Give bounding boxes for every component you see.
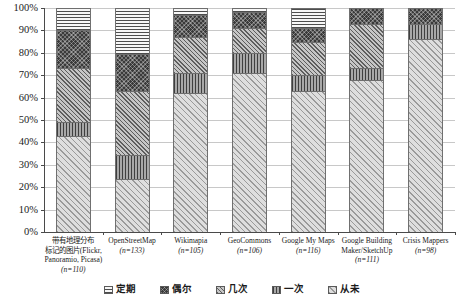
x-axis-category-label: Crisis Mappers(n=98) [391,236,461,255]
x-tick-mark [103,232,104,235]
y-tick-mark [41,187,44,188]
y-tick-mark [41,30,44,31]
y-tick-mark [41,232,44,233]
y-tick-mark [41,98,44,99]
legend-item[interactable]: 定期 [104,285,136,294]
legend-item-label: 几次 [228,285,248,294]
light-diagonal-swatch [328,286,337,294]
category-label-line: Panoramio, Picasa) [38,255,108,265]
x-tick-mark [161,232,162,235]
y-tick-label: 10% [0,205,38,215]
legend-item-label: 定期 [116,285,136,294]
y-tick-label: 90% [0,25,38,35]
y-tick-mark [41,8,44,9]
y-tick-mark [41,210,44,211]
x-tick-mark [220,232,221,235]
category-label-line: Crisis Mappers [391,236,461,246]
category-sample-size: (n=111) [332,255,402,265]
legend-item-label: 偶尔 [172,285,192,294]
stacked-bar-chart: 100%90%80%70%60%50%40%30%20%10%0% 带有地理分布… [0,0,463,308]
x-tick-mark [338,232,339,235]
legend-item-label: 一次 [284,285,304,294]
y-tick-label: 40% [0,137,38,147]
legend-item[interactable]: 一次 [272,285,304,294]
x-tick-mark [455,232,456,235]
y-tick-label: 30% [0,160,38,170]
y-tick-label: 100% [0,3,38,13]
y-tick-label: 20% [0,182,38,192]
y-tick-mark [41,165,44,166]
legend-item[interactable]: 几次 [216,285,248,294]
dark-crosshatch-swatch [160,286,169,294]
y-tick-mark [41,142,44,143]
y-tick-label: 80% [0,48,38,58]
vertical-lines-swatch [272,286,281,294]
category-sample-size: (n=98) [391,246,461,256]
y-tick-label: 50% [0,115,38,125]
x-tick-mark [279,232,280,235]
y-tick-mark [41,75,44,76]
legend-item[interactable]: 偶尔 [160,285,192,294]
category-sample-size: (n=110) [38,265,108,275]
y-tick-label: 70% [0,70,38,80]
legend-item[interactable]: 从未 [328,285,360,294]
dense-diagonal-swatch [216,286,225,294]
legend-item-label: 从未 [340,285,360,294]
x-tick-mark [396,232,397,235]
y-tick-label: 0% [0,227,38,237]
y-tick-mark [41,53,44,54]
y-tick-label: 60% [0,93,38,103]
horizontal-lines-swatch [104,286,113,294]
chart-legend: 定期偶尔几次一次从未 [0,285,463,294]
y-tick-mark [41,120,44,121]
